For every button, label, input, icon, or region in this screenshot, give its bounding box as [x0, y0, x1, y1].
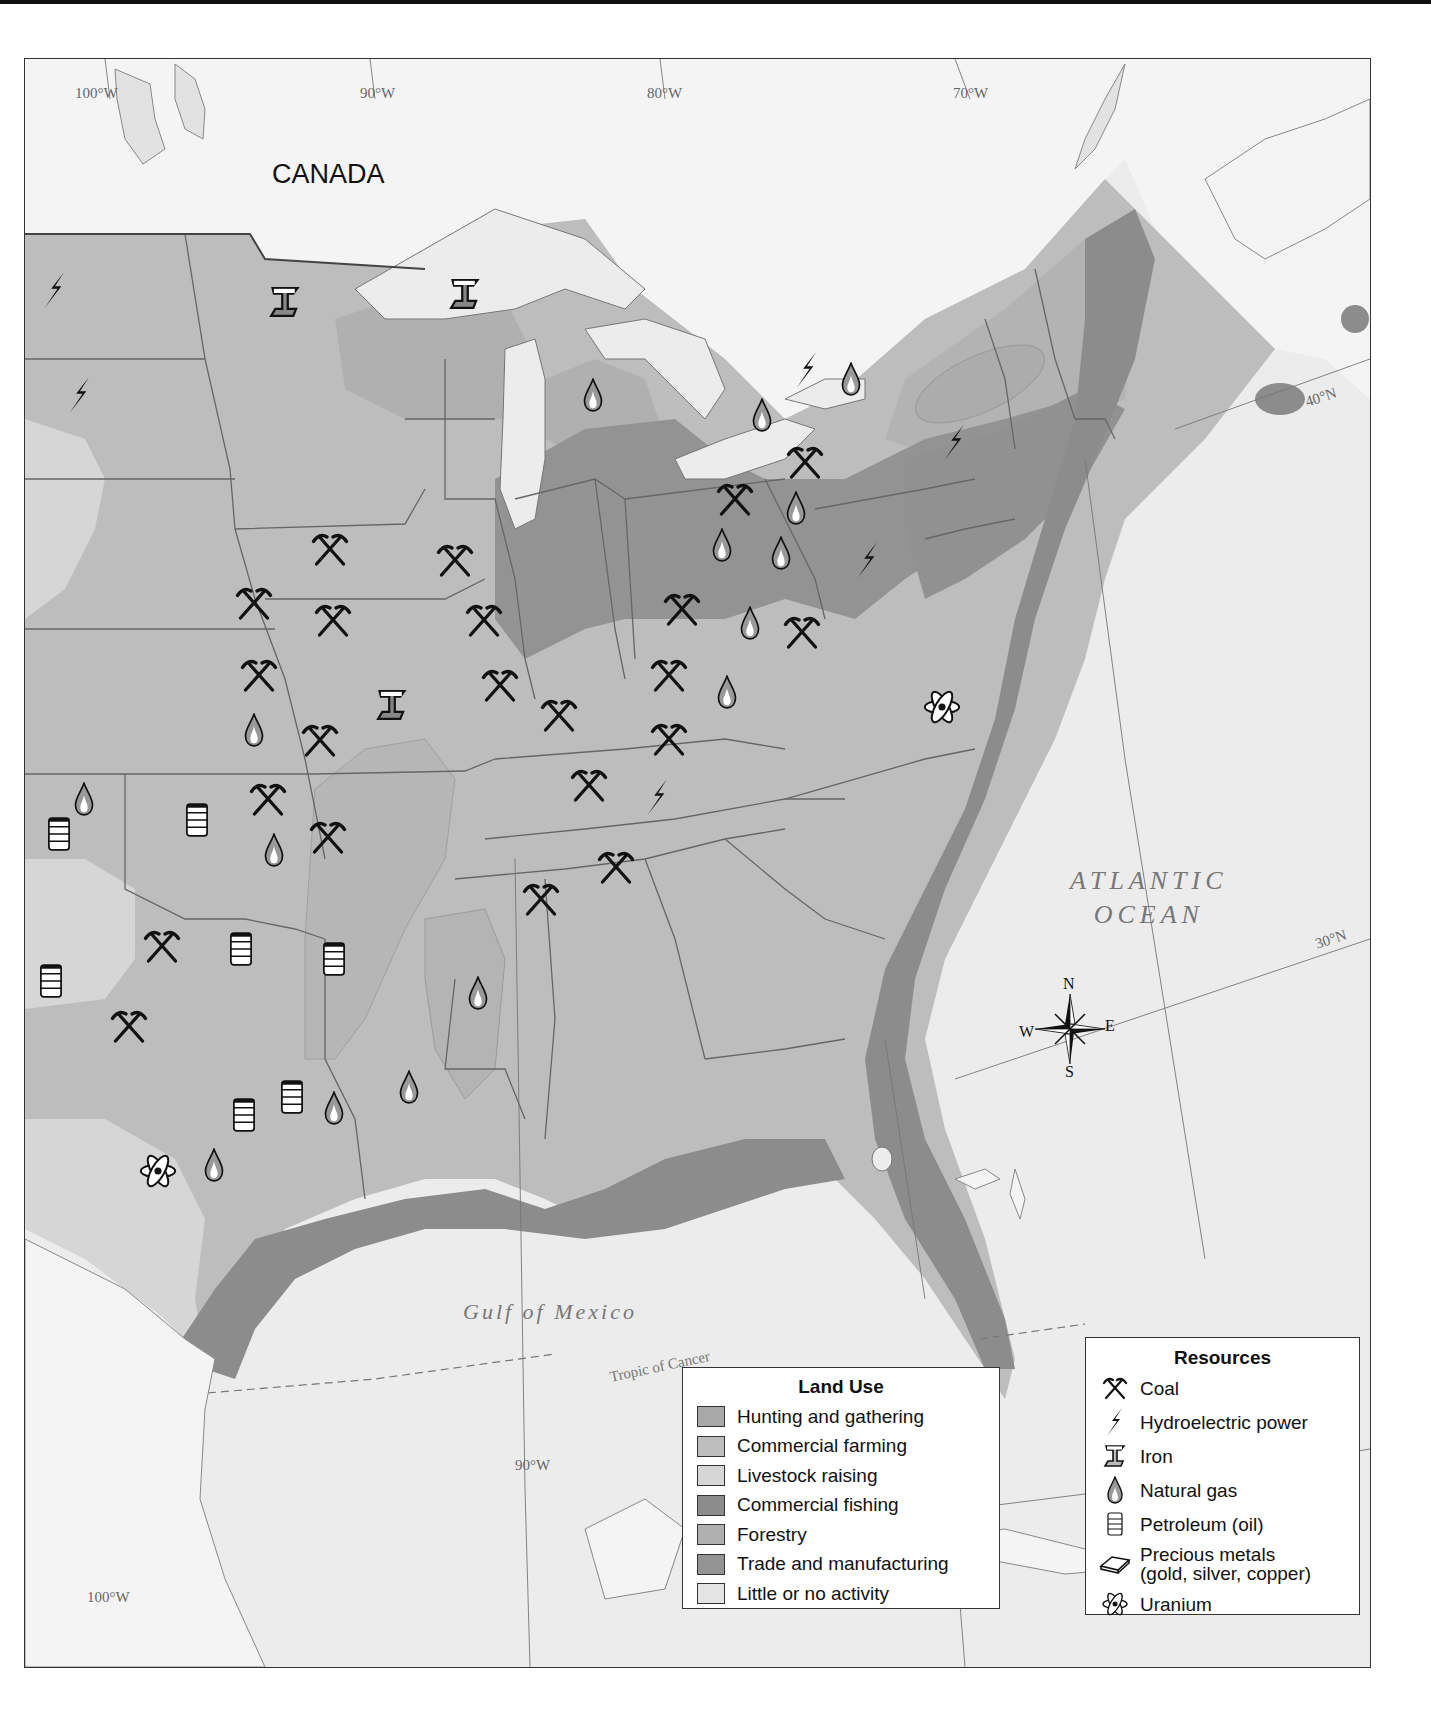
petroleum-icon	[231, 1095, 257, 1139]
precious-metals-icon	[1098, 1554, 1132, 1574]
resource-item: Petroleum (oil)	[1086, 1507, 1359, 1541]
petroleum-icon	[184, 800, 210, 844]
swatch-little-activity	[697, 1583, 725, 1604]
petroleum-icon	[46, 814, 72, 858]
resources-title: Resources	[1086, 1338, 1359, 1371]
uranium-icon	[138, 1151, 178, 1195]
coal-icon	[569, 767, 609, 807]
yucatan-land	[585, 1499, 685, 1599]
resource-item: Uranium	[1086, 1587, 1359, 1621]
country-label-canada: CANADA	[272, 159, 385, 190]
land-use-item: Commercial farming	[683, 1432, 999, 1462]
fishing-georges-bank	[1255, 383, 1305, 415]
uranium-icon	[922, 687, 962, 731]
resource-label: Precious metals	[1140, 1544, 1275, 1565]
swatch-livestock	[697, 1465, 725, 1486]
coal-icon	[109, 1008, 149, 1048]
longitude-label-70w-top: 70°W	[953, 85, 988, 102]
iron-icon	[374, 688, 410, 726]
compass-rose: N S E W	[1025, 979, 1115, 1079]
natural-gas-icon	[785, 491, 807, 529]
natural-gas-icon	[263, 833, 285, 871]
compass-e: E	[1105, 1017, 1115, 1035]
lake-okeechobee	[872, 1147, 892, 1171]
coal-icon	[142, 928, 182, 968]
compass-s: S	[1065, 1063, 1074, 1081]
hydroelectric-icon	[941, 422, 969, 466]
ocean-label-line2: OCEAN	[1070, 898, 1228, 932]
coal-icon	[313, 602, 353, 642]
resource-item: Coal	[1086, 1371, 1359, 1405]
coal-icon	[300, 722, 340, 762]
land-use-item: Commercial fishing	[683, 1491, 999, 1521]
coal-icon	[649, 721, 689, 761]
coal-icon	[1098, 1376, 1132, 1400]
resource-item: Precious metals(gold, silver, copper)	[1086, 1541, 1359, 1587]
resource-label: Coal	[1140, 1379, 1179, 1398]
coal-icon	[234, 585, 274, 625]
natural-gas-icon	[1098, 1476, 1132, 1504]
natural-gas-icon	[73, 782, 95, 820]
longitude-label-90w-bottom: 90°W	[515, 1457, 550, 1474]
petroleum-icon	[38, 961, 64, 1005]
swatch-forestry	[697, 1524, 725, 1545]
land-use-label: Commercial farming	[737, 1435, 907, 1457]
hydroelectric-icon	[41, 270, 69, 314]
land-use-legend: Land Use Hunting and gathering Commercia…	[682, 1367, 1000, 1609]
land-use-label: Little or no activity	[737, 1583, 889, 1605]
swatch-fishing	[697, 1495, 725, 1516]
natural-gas-icon	[203, 1148, 225, 1186]
coal-icon	[480, 667, 520, 707]
land-use-label: Forestry	[737, 1524, 807, 1546]
coal-icon	[310, 531, 350, 571]
bahamas-island-2	[1010, 1169, 1025, 1219]
coal-icon	[435, 542, 475, 582]
land-use-item: Hunting and gathering	[683, 1402, 999, 1432]
natural-gas-icon	[739, 606, 761, 644]
tropic-of-cancer-line	[195, 1354, 555, 1394]
natural-gas-icon	[711, 528, 733, 566]
iron-icon	[1098, 1444, 1132, 1468]
hydroelectric-icon	[1098, 1407, 1132, 1437]
land-use-label: Hunting and gathering	[737, 1406, 924, 1428]
hydroelectric-icon	[644, 777, 672, 821]
resources-legend: Resources Coal Hydroelectric power Iron …	[1085, 1337, 1360, 1615]
natural-gas-icon	[840, 362, 862, 400]
hydroelectric-icon	[66, 375, 94, 419]
natural-gas-icon	[751, 398, 773, 436]
land-use-label: Livestock raising	[737, 1465, 877, 1487]
coal-icon	[464, 602, 504, 642]
longitude-label-80w-top: 80°W	[647, 85, 682, 102]
petroleum-icon	[228, 929, 254, 973]
coal-icon	[662, 591, 702, 631]
petroleum-icon	[1098, 1511, 1132, 1537]
resource-label-precious: Precious metals(gold, silver, copper)	[1140, 1545, 1311, 1583]
coal-icon	[239, 657, 279, 697]
land-use-title: Land Use	[683, 1368, 999, 1402]
coal-icon	[785, 444, 825, 484]
resource-label-line2: (gold, silver, copper)	[1140, 1563, 1311, 1584]
iron-icon	[447, 277, 483, 315]
coal-icon	[596, 849, 636, 889]
longitude-label-90w-top: 90°W	[360, 85, 395, 102]
coal-icon	[308, 819, 348, 859]
longitude-label-100w-top: 100°W	[75, 85, 118, 102]
swatch-hunting	[697, 1406, 725, 1427]
gulf-label: Gulf of Mexico	[463, 1299, 637, 1325]
coal-icon	[521, 881, 561, 921]
coal-icon	[248, 781, 288, 821]
natural-gas-icon	[467, 976, 489, 1014]
top-edge-bar	[0, 0, 1431, 4]
petroleum-icon	[321, 939, 347, 983]
map-frame: 100°W 90°W 80°W 70°W 40°N 30°N 20°N 90°W…	[24, 58, 1371, 1668]
resource-label: Natural gas	[1140, 1481, 1237, 1500]
longitude-label-100w-bottom: 100°W	[87, 1589, 130, 1606]
resource-label: Petroleum (oil)	[1140, 1515, 1264, 1534]
coal-icon	[539, 697, 579, 737]
resource-label: Uranium	[1140, 1595, 1212, 1614]
compass-w: W	[1019, 1023, 1034, 1041]
ocean-label-line1: ATLANTIC	[1070, 864, 1228, 898]
resource-item: Hydroelectric power	[1086, 1405, 1359, 1439]
land-use-label: Commercial fishing	[737, 1494, 899, 1516]
land-use-item: Trade and manufacturing	[683, 1550, 999, 1580]
